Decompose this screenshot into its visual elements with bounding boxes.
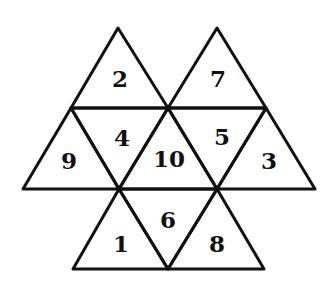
triangle-labels: 27941053168 xyxy=(61,65,277,257)
triangle-number-diagram: 27941053168 xyxy=(0,0,332,286)
triangle-number-label: 3 xyxy=(261,147,277,174)
triangle-number-label: 2 xyxy=(112,65,128,92)
triangle-number-label: 5 xyxy=(214,123,230,150)
triangle-number-label: 10 xyxy=(153,145,185,172)
triangle-number-label: 8 xyxy=(209,230,225,257)
triangle-number-label: 6 xyxy=(160,206,176,233)
triangle-number-label: 7 xyxy=(210,65,226,92)
triangle-number-label: 4 xyxy=(114,124,130,151)
triangle-number-label: 9 xyxy=(61,147,77,174)
triangle-number-label: 1 xyxy=(113,230,129,257)
